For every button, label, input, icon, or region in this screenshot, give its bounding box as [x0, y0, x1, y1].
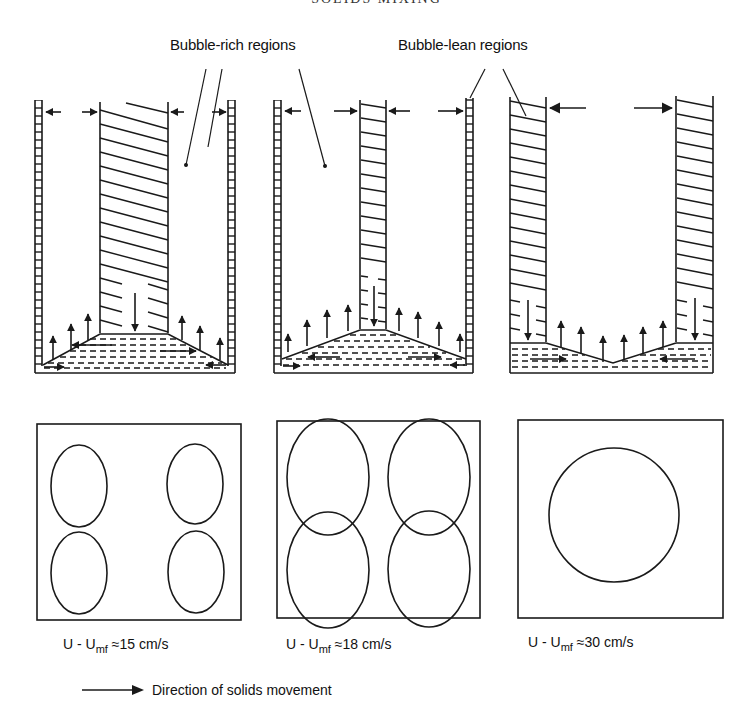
- caption-panel-1: U - Umf ≈15 cm/s: [63, 636, 169, 655]
- plan-view-3: [518, 420, 723, 618]
- legend-text: Direction of solids movement: [152, 682, 332, 698]
- vessel-2-side-view: [274, 98, 473, 373]
- plan-view-1: [37, 424, 241, 620]
- bubble-lean-label: Bubble-lean regions: [398, 36, 528, 53]
- right-arrow-icon: [82, 685, 144, 695]
- caption-panel-2: U - Umf ≈18 cm/s: [286, 636, 392, 655]
- vessel-3-side-view: [510, 96, 713, 373]
- caption-panel-3: U - Umf ≈30 cm/s: [528, 634, 634, 653]
- vessel-1-side-view: [35, 100, 235, 373]
- leader-lines: [185, 69, 526, 167]
- bubble-rich-label: Bubble-rich regions: [170, 36, 295, 53]
- plan-view-2: [277, 419, 480, 628]
- diagram-canvas: [0, 0, 753, 718]
- legend: Direction of solids movement: [82, 682, 332, 698]
